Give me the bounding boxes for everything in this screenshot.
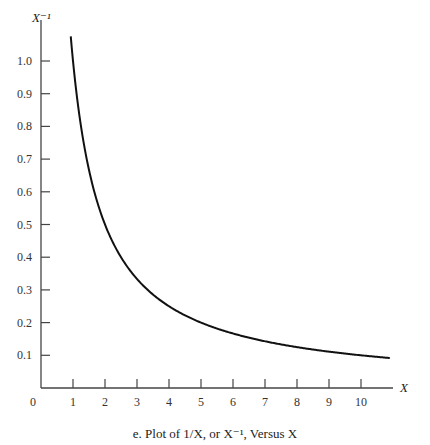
chart-plot-area: 0.10.20.30.40.50.60.70.80.91.01234567891… [0, 0, 430, 445]
y-tick-label: 0.8 [17, 119, 32, 133]
y-tick-label: 0.4 [17, 250, 32, 264]
x-tick-label: 8 [294, 395, 300, 409]
x-tick-label: 5 [198, 395, 204, 409]
x-tick-label: 10 [355, 395, 367, 409]
figure-caption: e. Plot of 1/X, or X⁻¹, Versus X [0, 426, 430, 442]
x-tick-label: 4 [166, 395, 172, 409]
x-tick-label: 3 [134, 395, 140, 409]
x-tick-label: 1 [70, 395, 76, 409]
x-tick-label: 9 [326, 395, 332, 409]
x-tick-label: 7 [262, 395, 268, 409]
y-tick-label: 0.2 [17, 316, 32, 330]
y-tick-label: 1.0 [17, 54, 32, 68]
curve-1-over-x [71, 36, 390, 358]
x-tick-label: 2 [102, 395, 108, 409]
origin-label: 0 [30, 395, 36, 409]
y-tick-label: 0.9 [17, 87, 32, 101]
y-tick-label: 0.6 [17, 185, 32, 199]
x-tick-label: 6 [230, 395, 236, 409]
y-tick-label: 0.5 [17, 218, 32, 232]
y-tick-label: 0.3 [17, 283, 32, 297]
x-axis-title: X [399, 380, 409, 395]
y-tick-label: 0.1 [17, 348, 32, 362]
caption-text: e. Plot of 1/X, or X⁻¹, Versus X [133, 426, 297, 441]
y-tick-label: 0.7 [17, 152, 32, 166]
y-axis-title: X⁻¹ [31, 10, 51, 25]
